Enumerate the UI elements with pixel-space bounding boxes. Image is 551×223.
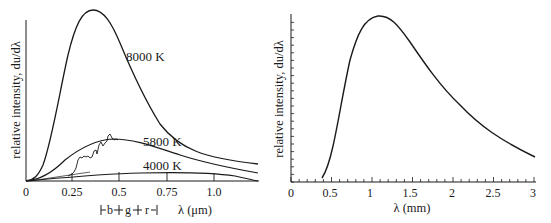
right-tick-label-2.5: 2.5 (486, 186, 501, 200)
right-tick-label-3: 3 (530, 186, 536, 200)
band-b: b (107, 203, 113, 217)
tick-label-0.5: 0.5 (112, 185, 127, 199)
right-tick-label-2: 2 (449, 186, 455, 200)
left-chart: 8000 K 5800 K 4000 K 0 0.25 0.5 0.75 1.0… (9, 10, 259, 217)
tick-label-0: 0 (23, 185, 29, 199)
label-8000K: 8000 K (126, 49, 165, 64)
label-4000K: 4000 K (143, 158, 182, 173)
tick-label-0.75: 0.75 (157, 185, 178, 199)
tick-label-0.25: 0.25 (62, 185, 83, 199)
right-x-minor-ticks (291, 177, 534, 182)
label-5800K: 5800 K (143, 134, 182, 149)
right-y-axis-label: relative intensity, du/dλ (272, 40, 286, 157)
tick-label-1.0: 1.0 (207, 185, 222, 199)
right-tick-label-0.5: 0.5 (323, 186, 338, 200)
left-y-axis-label: relative intensity, du/dλ (9, 41, 23, 158)
curve-4000K (26, 173, 258, 181)
right-x-axis-label: λ (mm) (394, 201, 431, 215)
right-tick-label-1: 1 (367, 186, 373, 200)
curve-spectrum-mm (322, 16, 535, 178)
left-x-axis-label: λ (μm) (178, 203, 212, 217)
curve-solar-measured (68, 134, 118, 176)
right-tick-label-0: 0 (288, 186, 294, 200)
curve-8000K (26, 10, 258, 181)
figure-canvas: 8000 K 5800 K 4000 K 0 0.25 0.5 0.75 1.0… (0, 0, 551, 223)
band-r: r (145, 203, 149, 217)
right-tick-label-1.5: 1.5 (403, 186, 418, 200)
right-chart: 0 0.5 1 1.5 2 2.5 3 λ (mm) relative inte… (272, 14, 536, 215)
band-g: g (125, 203, 131, 217)
